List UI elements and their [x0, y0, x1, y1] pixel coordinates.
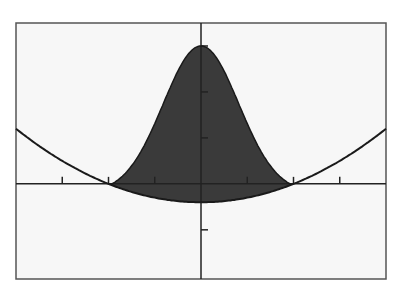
graph-plot	[0, 0, 398, 296]
